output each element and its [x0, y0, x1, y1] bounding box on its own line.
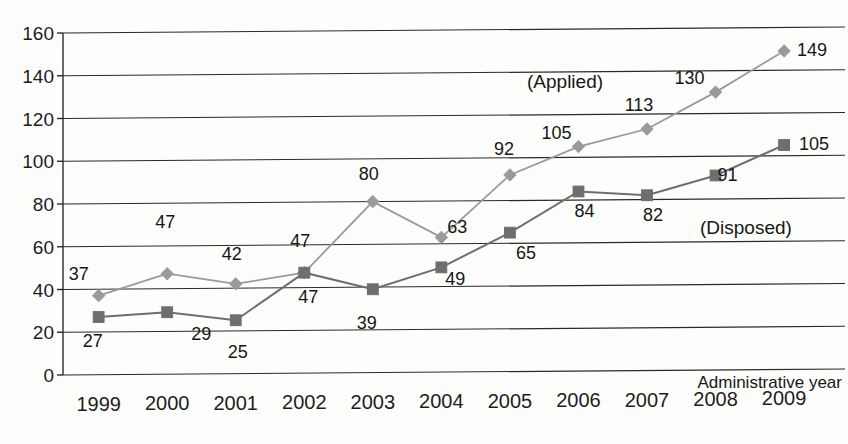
disposed-series-annotation: (Disposed) — [700, 217, 792, 238]
y-tick-label: 160 — [22, 23, 54, 44]
y-tick-label: 140 — [22, 66, 54, 87]
data-point-label: 49 — [445, 269, 465, 289]
data-point-label: 27 — [83, 331, 103, 351]
data-point-label: 149 — [797, 40, 827, 60]
data-point-label: 91 — [718, 165, 738, 185]
data-point-label: 63 — [447, 217, 467, 237]
data-point-square — [367, 284, 378, 295]
gridline — [63, 113, 845, 119]
data-point-diamond — [778, 45, 790, 57]
x-tick-label: 1999 — [76, 393, 121, 415]
y-tick-label: 120 — [22, 109, 54, 130]
y-axis: 020406080100120140160 — [22, 23, 63, 386]
x-tick-label: 2007 — [625, 389, 670, 411]
gridline — [63, 198, 845, 204]
data-point-square — [230, 315, 241, 326]
data-point-diamond — [641, 123, 653, 135]
data-point-square — [779, 140, 790, 151]
data-point-square — [642, 190, 653, 201]
data-point-label: 47 — [155, 212, 175, 232]
x-tick-label: 2000 — [145, 392, 190, 414]
y-tick-label: 40 — [33, 280, 54, 301]
data-point-label: 47 — [290, 231, 310, 251]
y-tick-label: 60 — [33, 237, 54, 258]
line-chart: 020406080100120140160 199920002001200220… — [0, 0, 848, 444]
data-point-label: 42 — [222, 244, 242, 264]
data-point-label: 25 — [228, 342, 248, 362]
data-point-label: 39 — [357, 313, 377, 333]
data-point-square — [93, 312, 104, 323]
x-tick-label: 2001 — [213, 392, 258, 414]
grid-lines — [63, 27, 845, 375]
data-point-label: 65 — [516, 243, 536, 263]
x-tick-label: 2003 — [351, 391, 396, 413]
data-point-label: 105 — [541, 123, 571, 143]
data-point-square — [573, 186, 584, 197]
data-point-label: 130 — [675, 68, 705, 88]
x-tick-label: 2004 — [419, 390, 464, 412]
data-point-label: 29 — [191, 324, 211, 344]
data-point-diamond — [709, 86, 721, 98]
x-tick-label: 2005 — [488, 390, 533, 412]
gridline — [63, 241, 845, 247]
data-point-label: 80 — [359, 164, 379, 184]
data-point-label: 84 — [574, 201, 594, 221]
x-axis: 1999200020012002200320042005200620072008… — [76, 373, 842, 415]
x-tick-label: 2006 — [556, 389, 601, 411]
chart-canvas: 020406080100120140160 199920002001200220… — [0, 0, 848, 444]
gridline — [63, 27, 845, 33]
data-point-square — [162, 307, 173, 318]
y-tick-label: 80 — [33, 194, 54, 215]
data-point-square — [299, 267, 310, 278]
applied-series-annotation: (Applied) — [527, 71, 603, 92]
data-point-diamond — [161, 268, 173, 280]
data-point-label: 47 — [298, 287, 318, 307]
data-point-diamond — [92, 289, 104, 301]
data-point-label: 113 — [625, 95, 654, 115]
data-point-square — [505, 227, 516, 238]
x-tick-label: 2002 — [282, 391, 327, 413]
y-tick-label: 100 — [22, 151, 54, 172]
data-point-label: 92 — [494, 139, 514, 159]
y-tick-label: 20 — [33, 322, 54, 343]
data-point-label: 37 — [69, 264, 89, 284]
data-point-label: 82 — [643, 205, 663, 225]
y-tick-label: 0 — [43, 365, 54, 386]
data-point-diamond — [572, 140, 584, 152]
gridline — [63, 70, 845, 76]
x-axis-title: Administrative year — [697, 373, 842, 392]
data-point-label: 105 — [799, 134, 829, 154]
gridline — [63, 326, 845, 332]
gridline — [63, 155, 845, 161]
